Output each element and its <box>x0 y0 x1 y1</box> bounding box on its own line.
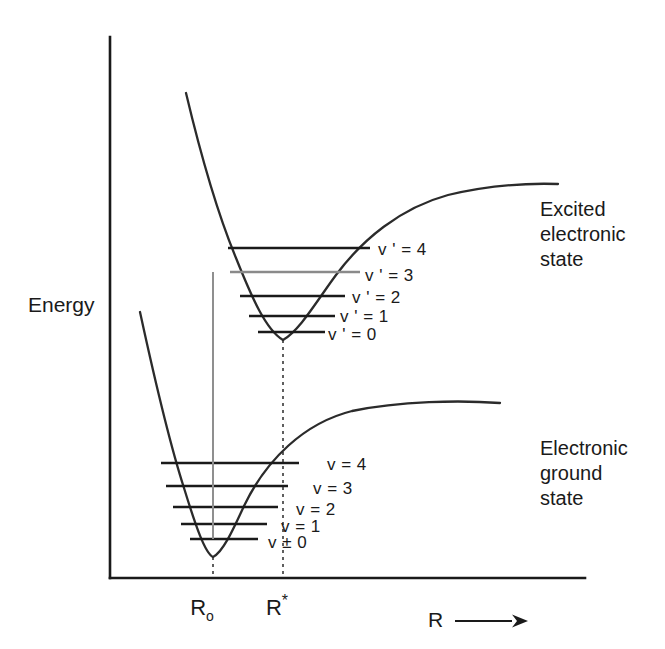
x-tick-r0-base: R <box>190 595 206 620</box>
excited-level-labels-group: v ' = 4 v ' = 3 v ' = 2 v ' = 1 v ' = 0 <box>328 240 427 344</box>
diagram-canvas: v ' = 4 v ' = 3 v ' = 2 v ' = 1 v ' = 0 … <box>0 0 665 649</box>
excited-level-label-v4: v ' = 4 <box>378 240 427 259</box>
ground-level-label-v3: v = 3 <box>313 479 353 498</box>
ground-state-label-group: Electronic ground state <box>540 437 628 509</box>
excited-level-label-v2: v ' = 2 <box>352 288 401 307</box>
x-tick-rstar-base: R <box>266 595 282 620</box>
x-tick-labels-group: Ro R* <box>190 592 288 624</box>
excited-state-label-line2: electronic <box>540 223 626 245</box>
x-tick-label-r0: Ro <box>190 595 214 624</box>
excited-level-label-v1: v ' = 1 <box>340 307 389 326</box>
excited-state-label-line1: Excited <box>540 198 606 220</box>
x-axis-label-group: R <box>428 608 528 631</box>
excited-level-label-v0: v ' = 0 <box>328 325 377 344</box>
y-axis-label: Energy <box>28 293 95 316</box>
x-tick-r0-subscript: o <box>206 608 214 624</box>
ground-state-label-line2: ground <box>540 462 602 484</box>
excited-state-label-group: Excited electronic state <box>540 198 626 270</box>
y-axis-label-group: Energy <box>28 293 95 316</box>
excited-level-label-v3: v ' = 3 <box>365 266 414 285</box>
ground-state-label-line1: Electronic <box>540 437 628 459</box>
ground-state-label-line3: state <box>540 487 583 509</box>
excited-state-label-line3: state <box>540 248 583 270</box>
x-tick-rstar-superscript: * <box>282 592 288 609</box>
right-arrow-icon <box>455 615 528 628</box>
x-tick-label-rstar: R* <box>266 592 288 620</box>
ground-state-levels-group <box>161 463 299 539</box>
ground-level-label-v4: v = 4 <box>327 455 367 474</box>
x-axis-label: R <box>428 608 443 631</box>
potential-energy-diagram: v ' = 4 v ' = 3 v ' = 2 v ' = 1 v ' = 0 … <box>0 0 665 649</box>
ground-level-label-v0: v ± 0 <box>268 533 307 552</box>
